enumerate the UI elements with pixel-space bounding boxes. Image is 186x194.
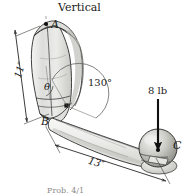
vertical-reference-label: Vertical xyxy=(58,2,101,13)
point-a-marker xyxy=(44,22,48,26)
load-force-label: 8 lb xyxy=(148,86,167,96)
point-a-label: A xyxy=(51,19,59,30)
theta-angle-label: θ xyxy=(44,82,50,92)
point-c-label: C xyxy=(173,140,181,151)
figure-caption: Prob. 4/1 xyxy=(47,187,84,194)
point-b-label: B xyxy=(41,116,49,127)
elbow-angle-label: 130° xyxy=(88,78,112,88)
figure-arm-statics-diagram: Vertical A B C θ 11″ 13″ 130° 8 lb Prob.… xyxy=(0,0,186,194)
